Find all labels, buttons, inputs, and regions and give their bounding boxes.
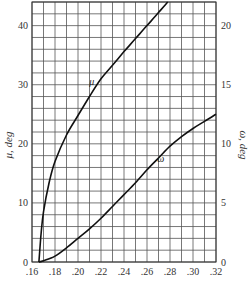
- x-tick-label: .18: [49, 266, 62, 277]
- curve-label: μ: [88, 76, 94, 87]
- x-tick-label: .20: [72, 266, 85, 277]
- left-y-tick-label: 20: [18, 138, 28, 149]
- right-y-tick-label: 20: [221, 20, 231, 31]
- x-tick-label: .26: [141, 266, 154, 277]
- left-y-axis-label: μ, deg: [2, 131, 14, 159]
- x-tick-label: .16: [26, 266, 39, 277]
- left-y-tick-label: 30: [18, 79, 28, 90]
- x-axis-ticks: .16.18.20.22.24.26.28.30.32: [26, 266, 223, 277]
- left-y-tick-label: 0: [23, 257, 28, 268]
- curve-labels: μω: [88, 76, 164, 164]
- right-y-tick-label: 0: [221, 257, 226, 268]
- x-tick-label: .30: [187, 266, 200, 277]
- chart: .16.18.20.22.24.26.28.30.32 010203040 05…: [0, 0, 249, 288]
- right-y-axis-ticks: 05101520: [221, 20, 231, 267]
- left-y-axis-ticks: 010203040: [18, 20, 28, 267]
- left-y-tick-label: 10: [18, 197, 28, 208]
- right-y-tick-label: 15: [221, 79, 231, 90]
- right-y-tick-label: 10: [221, 138, 231, 149]
- curve-label: ω: [157, 153, 164, 164]
- x-tick-label: .24: [118, 266, 131, 277]
- x-tick-label: .32: [210, 266, 223, 277]
- right-y-tick-label: 5: [221, 197, 226, 208]
- right-y-axis-label: ω, deg: [238, 130, 249, 160]
- x-tick-label: .28: [164, 266, 177, 277]
- x-tick-label: .22: [95, 266, 108, 277]
- left-y-tick-label: 40: [18, 20, 28, 31]
